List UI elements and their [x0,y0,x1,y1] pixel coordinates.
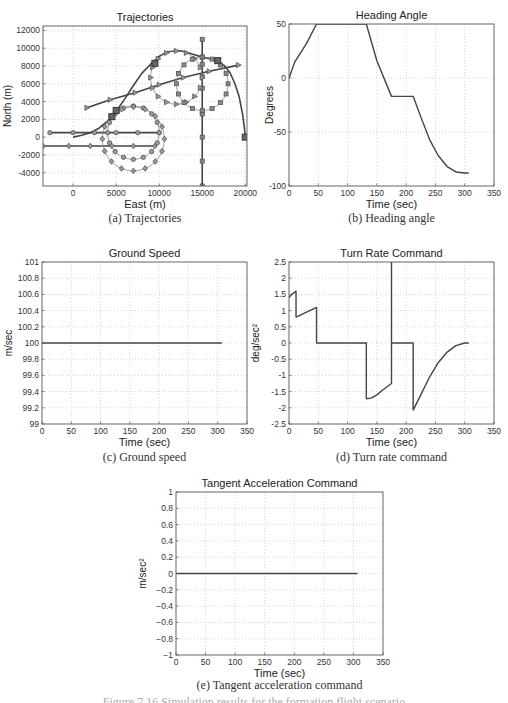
svg-text:200: 200 [399,188,413,198]
svg-text:0: 0 [281,73,286,83]
caption-e: (e) Tangent acceleration command [126,678,433,693]
svg-text:1: 1 [281,306,286,316]
svg-text:100.4: 100.4 [18,306,40,316]
svg-text:300: 300 [346,657,360,667]
svg-text:20000: 20000 [233,188,257,198]
svg-text:150: 150 [258,657,272,667]
chart-title: Trajectories [116,11,174,23]
svg-text:1: 1 [168,487,173,497]
svg-text:99.8: 99.8 [22,354,39,364]
x-axis-label: Time (sec) [119,436,171,448]
svg-text:200: 200 [287,657,301,667]
svg-text:-2000: -2000 [18,150,40,160]
chart-title: Ground Speed [109,247,181,259]
svg-text:0: 0 [281,338,286,348]
svg-text:0: 0 [287,188,292,198]
svg-text:50: 50 [314,188,324,198]
svg-text:150: 150 [370,426,384,436]
svg-text:200: 200 [152,426,166,436]
svg-text:−0.4: −0.4 [156,601,173,611]
svg-text:50: 50 [314,426,324,436]
x-axis-label: Time (sec) [366,198,418,210]
svg-text:0: 0 [168,569,173,579]
svg-text:4000: 4000 [21,97,40,107]
chart-title: Turn Rate Command [340,247,442,259]
svg-text:99.4: 99.4 [22,387,39,397]
svg-text:-0.5: -0.5 [271,354,286,364]
svg-text:0.4: 0.4 [161,536,173,546]
caption-a: (a) Trajectories [43,211,247,226]
svg-text:100.2: 100.2 [18,322,40,332]
svg-text:10000: 10000 [16,43,40,53]
svg-text:250: 250 [181,426,195,436]
svg-text:300: 300 [458,426,472,436]
svg-text:250: 250 [317,657,331,667]
svg-text:100: 100 [340,426,354,436]
svg-text:99.6: 99.6 [22,370,39,380]
caption-c: (c) Ground speed [42,450,247,465]
svg-text:−0.6: −0.6 [156,617,173,627]
svg-text:100: 100 [340,188,354,198]
chart-c: 0501001502002503003509999.299.499.699.81… [3,247,254,448]
y-axis-label: Degrees [264,86,275,124]
svg-text:10000: 10000 [147,188,171,198]
svg-text:100.8: 100.8 [18,273,40,283]
svg-text:50: 50 [277,19,287,29]
chart-a: 05000100001500020000-4000-20000200040006… [2,11,257,210]
svg-text:-1: -1 [278,370,286,380]
svg-text:150: 150 [370,188,384,198]
svg-text:5000: 5000 [107,188,126,198]
svg-text:250: 250 [428,426,442,436]
svg-text:200: 200 [399,426,413,436]
svg-text:-50: -50 [274,127,287,137]
svg-text:350: 350 [240,426,254,436]
svg-text:15000: 15000 [190,188,214,198]
caption-d: (d) Turn rate command [289,450,494,465]
svg-text:−0.2: −0.2 [156,585,173,595]
svg-text:100: 100 [25,338,39,348]
svg-text:50: 50 [67,426,77,436]
svg-text:0: 0 [71,188,76,198]
svg-text:350: 350 [487,188,501,198]
svg-text:300: 300 [211,426,225,436]
svg-text:50: 50 [201,657,211,667]
caption-b: (b) Heading angle [289,211,494,226]
svg-text:-100: -100 [269,181,286,191]
y-axis-label: North (m) [2,85,13,127]
svg-text:2.5: 2.5 [274,257,286,267]
figure-canvas: 05000100001500020000-4000-20000200040006… [0,0,508,703]
svg-text:250: 250 [428,188,442,198]
figure-caption: Figure 7.16 Simulation results for the f… [0,694,508,703]
svg-text:-2: -2 [278,403,286,413]
chart-title: Tangent Acceleration Command [202,477,358,489]
y-axis-label: m/sec [3,330,14,357]
svg-text:99.2: 99.2 [22,403,39,413]
svg-text:0: 0 [174,657,179,667]
svg-text:100: 100 [228,657,242,667]
svg-text:2000: 2000 [21,114,40,124]
svg-text:350: 350 [376,657,390,667]
svg-text:0: 0 [287,426,292,436]
svg-text:150: 150 [123,426,137,436]
svg-text:-2.5: -2.5 [271,419,286,429]
svg-text:0.6: 0.6 [161,520,173,530]
svg-text:12000: 12000 [16,25,40,35]
svg-text:8000: 8000 [21,61,40,71]
svg-text:-1.5: -1.5 [271,387,286,397]
svg-text:-4000: -4000 [18,168,40,178]
svg-text:101: 101 [25,257,39,267]
x-axis-label: Time (sec) [366,436,418,448]
svg-text:0.5: 0.5 [274,322,286,332]
chart-b: 050100150200250300350-100-50050Heading A… [264,9,501,210]
y-axis-label: deg/sec² [250,323,261,362]
svg-text:1.5: 1.5 [274,289,286,299]
chart-e: 050100150200250300350−1−0.8−0.6−0.4−0.20… [137,477,390,679]
svg-text:99: 99 [30,419,40,429]
svg-text:−0.8: −0.8 [156,634,173,644]
x-axis-label: East (m) [124,198,166,210]
svg-text:0.8: 0.8 [161,503,173,513]
svg-text:6000: 6000 [21,79,40,89]
svg-text:0.2: 0.2 [161,552,173,562]
svg-text:0: 0 [35,132,40,142]
svg-text:350: 350 [487,426,501,436]
